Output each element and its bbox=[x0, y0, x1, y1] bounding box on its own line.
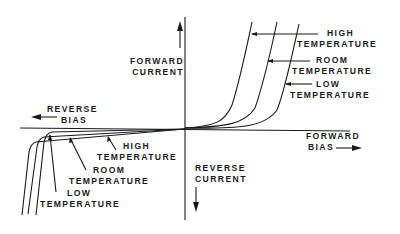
label-line: TEMPERATURE bbox=[297, 39, 377, 50]
forward-curve-room bbox=[185, 22, 277, 128]
label-line: LOW bbox=[290, 79, 370, 90]
label-line: FORWARD bbox=[300, 131, 366, 142]
label-line: HIGH bbox=[297, 28, 377, 39]
label-line: REVERSE bbox=[195, 163, 247, 174]
reverse-bias-label: REVERSE BIAS bbox=[47, 104, 98, 126]
label-line: ROOM bbox=[69, 165, 149, 176]
label-line: REVERSE bbox=[47, 104, 98, 115]
diode-iv-diagram: FORWARD CURRENT REVERSE CURRENT FORWARD … bbox=[0, 0, 400, 234]
label-line: BIAS bbox=[47, 115, 98, 126]
reverse-room-temperature-label: ROOM TEMPERATURE bbox=[69, 165, 149, 187]
label-line: TEMPERATURE bbox=[40, 199, 120, 210]
arrow-left-icon bbox=[31, 114, 41, 120]
label-line: TEMPERATURE bbox=[292, 66, 372, 77]
pointer-arrowhead-icon bbox=[69, 137, 73, 143]
arrow-down-icon bbox=[193, 202, 199, 212]
forward-room-temperature-label: ROOM TEMPERATURE bbox=[292, 55, 372, 77]
label-line: HIGH bbox=[97, 141, 177, 152]
reverse-high-temperature-label: HIGH TEMPERATURE bbox=[97, 141, 177, 163]
label-line: TEMPERATURE bbox=[69, 176, 149, 187]
label-line: ROOM bbox=[292, 55, 372, 66]
reverse-low-temperature-label: LOW TEMPERATURE bbox=[40, 188, 120, 210]
label-line: LOW bbox=[40, 188, 120, 199]
label-line: CURRENT bbox=[122, 67, 184, 78]
label-line: CURRENT bbox=[195, 174, 247, 185]
forward-curve-high bbox=[185, 22, 252, 128]
forward-curve-low bbox=[185, 24, 299, 128]
pointer-low-rev bbox=[50, 135, 56, 192]
forward-bias-label: FORWARD BIAS bbox=[300, 131, 366, 153]
forward-high-temperature-label: HIGH TEMPERATURE bbox=[297, 28, 377, 50]
label-line: TEMPERATURE bbox=[97, 152, 177, 163]
reverse-current-label: REVERSE CURRENT bbox=[195, 163, 247, 185]
forward-low-temperature-label: LOW TEMPERATURE bbox=[290, 79, 370, 101]
arrow-up-icon bbox=[177, 21, 183, 31]
forward-current-label: FORWARD CURRENT bbox=[122, 56, 184, 78]
label-line: FORWARD bbox=[122, 56, 184, 67]
label-line: BIAS bbox=[300, 142, 366, 153]
pointer-arrowhead-icon bbox=[251, 32, 257, 36]
label-line: TEMPERATURE bbox=[290, 90, 370, 101]
